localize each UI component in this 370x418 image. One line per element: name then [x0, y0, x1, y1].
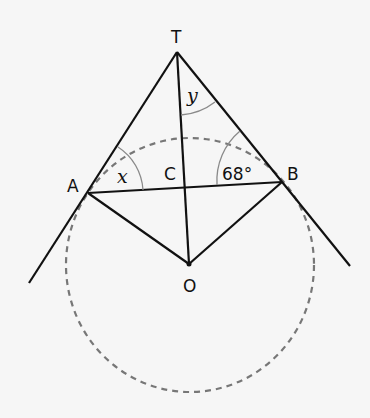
label-B: B	[287, 164, 299, 184]
angle-label-y: y	[186, 84, 198, 106]
radius-OA	[88, 193, 189, 264]
label-T: T	[170, 27, 182, 47]
radius-OB	[189, 182, 282, 264]
angle-label-x: x	[117, 165, 128, 187]
label-A: A	[67, 176, 79, 196]
label-C: C	[164, 164, 176, 184]
tangent-line-right	[177, 52, 350, 266]
geometry-diagram: T A B C O x y 68°	[0, 0, 370, 418]
center-point-O	[187, 262, 192, 267]
label-O: O	[183, 276, 196, 296]
angle-label-68: 68°	[222, 164, 252, 184]
tangent-line-left	[29, 52, 177, 283]
